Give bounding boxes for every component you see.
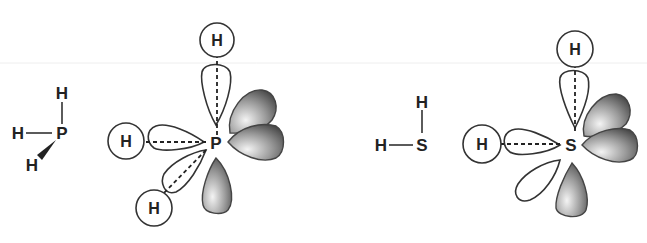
ph3-bonding-lobe-left [148, 125, 204, 150]
h2s-shaded-lobe-bottom [556, 163, 587, 217]
ph3-orbital-picture: H H H P [108, 23, 284, 226]
ph3-p-center-label: P [210, 134, 221, 153]
ph3-structural-formula: H H P H [12, 84, 68, 175]
h2s-nonbonding-lobe-lower-left [516, 160, 560, 201]
ph3-h-bottom-label: H [26, 156, 38, 175]
ph3-bonding-lobe-top [202, 65, 231, 126]
wedge-bond-p-h [37, 140, 56, 160]
ph3-h-lower-left-orbital-label: H [148, 200, 160, 217]
orbital-diagram: H H P H H H H P H H S [0, 0, 647, 243]
ph3-h-top-label: H [56, 84, 68, 103]
ph3-h-left-label: H [12, 124, 24, 143]
ph3-h-left-orbital-label: H [120, 133, 132, 150]
h2s-s-center-label: S [565, 136, 576, 155]
h2s-h-top-label: H [416, 93, 428, 112]
ph3-h-top-orbital-label: H [211, 32, 223, 49]
h2s-h-left-label: H [375, 136, 387, 155]
h2s-orbital-picture: H H S [463, 31, 638, 217]
h2s-bonding-lobe-left [504, 129, 560, 154]
h2s-h-top-orbital-label: H [569, 41, 581, 58]
ph3-shaded-lobe-bottom [202, 158, 231, 213]
h2s-h-left-orbital-label: H [476, 136, 488, 153]
ph3-p-label: P [56, 124, 67, 143]
h2s-s-label: S [416, 136, 427, 155]
h2s-structural-formula: H H S [375, 93, 428, 155]
